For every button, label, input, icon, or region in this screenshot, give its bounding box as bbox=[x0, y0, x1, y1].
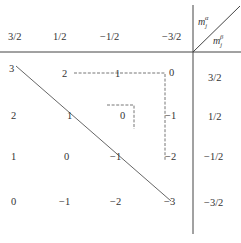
row-header: −3/2 bbox=[204, 197, 223, 208]
column-header: 1/2 bbox=[53, 31, 66, 42]
grid-cell: 2 bbox=[11, 110, 16, 121]
row-header: −1/2 bbox=[204, 151, 223, 162]
grid-cell: 3 bbox=[9, 63, 14, 74]
grid-cell: 2 bbox=[62, 68, 67, 79]
grid-cell: −1 bbox=[59, 196, 70, 207]
grid-cell: 1 bbox=[67, 110, 72, 121]
column-header: −1/2 bbox=[100, 31, 119, 42]
grid-cell: −1 bbox=[110, 151, 121, 162]
grid-cell: −2 bbox=[165, 151, 176, 162]
corner-label-beta: mjβ bbox=[213, 33, 224, 48]
column-header: −3/2 bbox=[162, 31, 181, 42]
row-header: 1/2 bbox=[208, 111, 221, 122]
solid-diagonal-line bbox=[16, 66, 171, 201]
grid-cell: 1 bbox=[11, 151, 16, 162]
corner-label-alpha: mjα bbox=[198, 14, 209, 29]
coupling-diagram: mjα mjβ 3/2 1/2 −1/2 −3/2 3/2 1/2 −1/2 −… bbox=[0, 0, 241, 243]
grid-cell: 0 bbox=[64, 151, 69, 162]
column-header: 3/2 bbox=[8, 31, 21, 42]
row-header: 3/2 bbox=[208, 72, 221, 83]
grid-cell: 1 bbox=[115, 68, 120, 79]
grid-cell: 0 bbox=[169, 67, 174, 78]
grid-cell: −2 bbox=[110, 196, 121, 207]
grid-cell: −3 bbox=[164, 196, 175, 207]
grid-cell: 0 bbox=[120, 110, 125, 121]
grid-cell: −1 bbox=[165, 110, 176, 121]
grid-cell: 0 bbox=[11, 196, 16, 207]
